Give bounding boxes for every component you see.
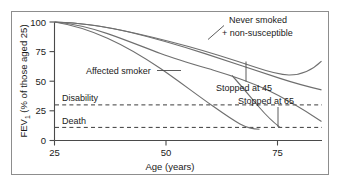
y-tick-label-0: 0 [41, 135, 46, 146]
annotation-stopped-at-65-label: Stopped at 65 [238, 96, 294, 106]
annotation-affected-smoker-label: Affected smoker [86, 66, 151, 76]
x-tick-label-25: 25 [49, 147, 60, 158]
y-tick-label-25: 25 [35, 105, 46, 116]
x-tick-label-50: 50 [161, 147, 172, 158]
y-axis-title-main: FEV [18, 118, 29, 137]
y-tick-label-100: 100 [30, 17, 46, 28]
y-tick-label-50: 50 [35, 76, 46, 87]
annotation-never-smoked-line2: + non-susceptible [222, 28, 293, 38]
y-tick-label-75: 75 [35, 46, 46, 57]
y-axis-tick-labels: 100 75 50 25 0 [30, 17, 46, 147]
y-axis-title: FEV1 (% of those aged 25) [18, 24, 31, 137]
annotation-never-smoked: Never smoked + non-susceptible [208, 15, 293, 40]
y-axis-title-rest: (% of those aged 25) [18, 24, 29, 115]
svg-text:FEV1 (% of those aged 25): FEV1 (% of those aged 25) [18, 24, 31, 137]
disability-threshold-label: Disability [62, 93, 99, 103]
annotation-stopped-at-65: Stopped at 65 [238, 96, 294, 127]
x-axis-tick-labels: 25 50 75 [49, 147, 283, 158]
annotation-stopped-at-45-label: Stopped at 45 [216, 83, 272, 93]
fev1-decline-chart: 100 75 50 25 0 25 50 75 Age (years) FEV1… [0, 0, 350, 187]
threshold-lines [55, 105, 322, 128]
annotation-never-smoked-line1: Never smoked [229, 15, 287, 25]
chart-figure: 100 75 50 25 0 25 50 75 Age (years) FEV1… [0, 0, 350, 187]
x-tick-label-75: 75 [272, 147, 283, 158]
x-axis-title: Age (years) [145, 161, 194, 172]
death-threshold-label: Death [62, 116, 86, 126]
annotation-affected-smoker: Affected smoker [86, 66, 181, 76]
